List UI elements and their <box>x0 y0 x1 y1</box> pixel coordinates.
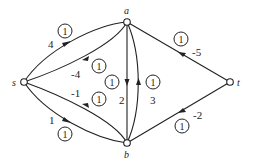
node-b <box>124 140 131 147</box>
cost-label-a-s: -4 <box>71 68 81 80</box>
capacity-badge-t-b: 1 <box>175 119 189 133</box>
svg-text:1: 1 <box>97 61 102 72</box>
svg-text:1: 1 <box>63 26 68 37</box>
cost-label-s-b: 1 <box>49 114 55 126</box>
node-label-s: s <box>12 77 16 88</box>
cost-label-t-b: -2 <box>193 109 202 121</box>
cost-label-t-a: -5 <box>192 46 202 58</box>
node-label-b: b <box>124 149 129 160</box>
capacity-badge-b-s: 1 <box>92 92 106 106</box>
cost-label-b-a: 3 <box>150 94 156 106</box>
node-label-a: a <box>124 5 129 16</box>
capacity-badge-s-a: 1 <box>58 24 72 38</box>
capacity-badge-b-a: 1 <box>146 75 160 89</box>
cost-label-s-a: 4 <box>48 38 54 50</box>
arrow-a-b-icon <box>125 79 130 86</box>
node-t <box>227 79 234 86</box>
arrow-b-a-icon <box>136 78 141 85</box>
cost-label-a-b: 2 <box>119 94 125 106</box>
node-label-t: t <box>237 77 240 88</box>
svg-text:1: 1 <box>180 121 185 132</box>
capacity-badge-t-a: 1 <box>174 32 188 46</box>
capacity-badge-a-s: 1 <box>92 59 106 73</box>
svg-text:1: 1 <box>110 77 115 88</box>
arrow-b-s-icon <box>82 103 89 108</box>
edge-b-a <box>127 22 138 143</box>
node-a <box>124 19 131 26</box>
svg-text:1: 1 <box>97 94 102 105</box>
capacity-badge-s-b: 1 <box>58 127 72 141</box>
network-flow-diagram: 4 -4 -1 1 2 3 -5 -2 1 1 1 1 1 1 1 1 s <box>0 0 253 164</box>
svg-text:1: 1 <box>151 77 156 88</box>
svg-text:1: 1 <box>63 129 68 140</box>
capacity-badge-a-b: 1 <box>105 75 119 89</box>
edge-t-a <box>127 22 230 82</box>
node-s <box>21 79 28 86</box>
svg-text:1: 1 <box>179 34 184 45</box>
cost-label-b-s: -1 <box>71 87 80 99</box>
